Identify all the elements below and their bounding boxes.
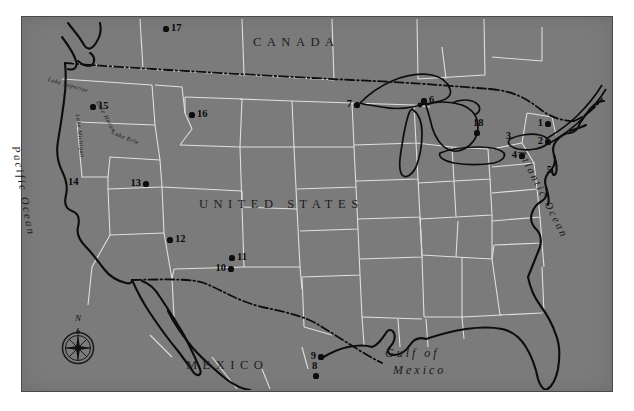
marker-number: 3: [506, 130, 511, 141]
marker-number: 14: [68, 176, 79, 187]
compass-rose-graphic: [54, 324, 102, 372]
marker-number: 8: [312, 360, 317, 371]
marker-number: 7: [347, 98, 352, 109]
marker-dot: [163, 26, 168, 31]
marker-number: 16: [197, 108, 208, 119]
marker-dot: [354, 102, 359, 107]
map-graphic: [22, 17, 611, 390]
marker-dot: [545, 121, 550, 126]
marker-number: 1: [538, 117, 543, 128]
marker-number: 9: [311, 350, 316, 361]
marker-dot: [313, 373, 318, 378]
marker-dot: [229, 255, 234, 260]
marker-number: 10: [216, 262, 227, 273]
marker-dot: [143, 181, 148, 186]
marker-dot: [519, 153, 524, 158]
marker-number: 4: [512, 149, 517, 160]
state-borders: [62, 19, 556, 389]
map-page: Lake Superior Lake Huron Lake Michigan L…: [0, 0, 634, 411]
marker-dot: [474, 130, 479, 135]
marker-number: 13: [131, 177, 142, 188]
marker-number: 15: [98, 100, 109, 111]
marker-number: 2: [538, 135, 543, 146]
marker-dot: [90, 104, 95, 109]
marker-number: 11: [237, 251, 247, 262]
compass-north-label: N: [75, 313, 81, 323]
marker-number: 17: [171, 22, 182, 33]
marker-dot: [421, 98, 426, 103]
marker-number: 12: [175, 233, 186, 244]
map-frame: Lake Superior Lake Huron Lake Michigan L…: [21, 16, 613, 392]
marker-number: 18: [473, 117, 484, 128]
marker-number: 5: [547, 164, 552, 175]
marker-dot: [189, 112, 194, 117]
marker-dot: [228, 266, 233, 271]
marker-dot: [318, 354, 323, 359]
marker-dot: [167, 237, 172, 242]
marker-number: 6: [429, 94, 434, 105]
international-borders: [65, 63, 602, 363]
marker-dot: [545, 139, 550, 144]
